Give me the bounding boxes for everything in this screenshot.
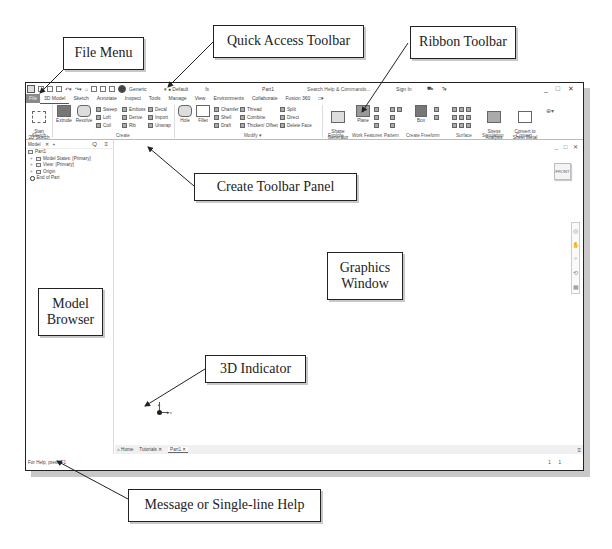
open-icon[interactable] xyxy=(47,86,53,92)
freeform-option-button[interactable] xyxy=(434,115,439,120)
doc-tab-part1[interactable]: Part1 ✕ xyxy=(168,447,188,453)
tab-manage[interactable]: Manage xyxy=(165,94,191,103)
sweep-button[interactable]: Sweep xyxy=(96,107,117,112)
direct-label: Direct xyxy=(287,115,299,120)
sign-in-button[interactable]: Sign In xyxy=(396,86,412,92)
split-button[interactable]: Split xyxy=(280,107,296,112)
emboss-button[interactable]: Emboss xyxy=(122,107,146,112)
surface-tools-row[interactable] xyxy=(452,123,471,128)
search-help-input[interactable]: Search Help & Commands... xyxy=(307,86,387,92)
window-controls[interactable]: _ □ ✕ xyxy=(544,85,577,93)
import-button[interactable]: Import xyxy=(148,115,168,120)
tab-environments[interactable]: Environments xyxy=(209,94,248,103)
decal-button[interactable]: Decal xyxy=(148,107,167,112)
hole-button[interactable]: Hole xyxy=(176,105,194,124)
update-icon[interactable] xyxy=(91,86,97,92)
browser-add-icon[interactable]: + xyxy=(53,142,56,147)
thicken-offset-label: Thicken/ Offset xyxy=(247,123,278,128)
combine-button[interactable]: Combine xyxy=(240,115,265,120)
status-count-1: 1 xyxy=(548,460,558,465)
hole-icon xyxy=(178,105,192,117)
plane-label: Plane xyxy=(357,118,369,123)
measure-icon[interactable] xyxy=(109,86,115,92)
model-states-icon xyxy=(36,157,41,161)
surface-tools-row[interactable] xyxy=(452,115,471,120)
home-icon[interactable]: ⌂ xyxy=(85,86,88,92)
coil-button[interactable]: Coil xyxy=(96,123,111,128)
doc-tab-home[interactable]: ⌂ Home xyxy=(117,447,133,452)
axis-button[interactable] xyxy=(374,107,379,112)
tab-annotate[interactable]: Annotate xyxy=(93,94,121,103)
tab-fusion-360[interactable]: Fusion 360 xyxy=(282,94,315,103)
new-icon[interactable] xyxy=(38,86,44,92)
tab-sketch[interactable]: Sketch xyxy=(69,94,92,103)
fillet-button[interactable]: Fillet xyxy=(194,105,212,124)
zoom-icon[interactable]: ⌕ xyxy=(574,255,577,262)
chamfer-button[interactable]: Chamfer xyxy=(214,107,239,112)
ribbon-options-icon[interactable]: ⊕▾ xyxy=(546,107,554,114)
tab-overflow[interactable]: □▾ xyxy=(314,94,328,103)
appearance-icon[interactable] xyxy=(118,85,126,93)
tab-collaborate[interactable]: Collaborate xyxy=(248,94,282,103)
sketch-pattern-button[interactable] xyxy=(390,123,395,128)
surface-tools-row[interactable] xyxy=(452,107,471,112)
navigation-bar: ◎ ✋ ⌕ ⟲ ▦ xyxy=(571,222,580,294)
x-axis-label: x xyxy=(170,411,172,415)
panel-label-modify[interactable]: Modify ▾ xyxy=(244,133,262,138)
fx-icon[interactable]: fx xyxy=(205,86,209,92)
appearance-dropdown[interactable]: Generic xyxy=(129,86,147,92)
doc-tab-tutorials[interactable]: Tutorials ✕ xyxy=(139,447,162,452)
thicken-offset-button[interactable]: Thicken/ Offset xyxy=(240,123,278,128)
redo-icon[interactable]: ↷▾ xyxy=(75,86,82,92)
draft-label: Draft xyxy=(221,123,231,128)
split-icon xyxy=(280,107,285,112)
extrude-button[interactable]: Extrude xyxy=(54,105,74,124)
plane-button[interactable]: Plane xyxy=(354,105,372,124)
undo-icon[interactable]: ↶▾ xyxy=(65,86,72,92)
revolve-button[interactable]: Revolve xyxy=(74,105,94,124)
steering-wheel-icon[interactable]: ◎ xyxy=(573,227,578,234)
window-title: Part1 xyxy=(262,86,274,92)
save-icon[interactable] xyxy=(56,86,62,92)
material-dropdown[interactable]: ▾ ● Default xyxy=(164,86,189,92)
browser-close-icon[interactable]: ✕ xyxy=(45,142,49,147)
unwrap-button[interactable]: Unwrap xyxy=(148,123,171,128)
tab-inspect[interactable]: Inspect xyxy=(121,94,145,103)
direct-button[interactable]: Direct xyxy=(280,115,299,120)
shell-icon xyxy=(214,115,219,120)
shell-button[interactable]: Shell xyxy=(214,115,231,120)
draft-button[interactable]: Draft xyxy=(214,123,231,128)
pan-icon[interactable]: ✋ xyxy=(572,241,579,248)
rib-button[interactable]: Rib xyxy=(122,123,136,128)
browser-tab-model[interactable]: Model xyxy=(28,142,41,147)
cart-icon[interactable]: ⛟ xyxy=(427,85,433,92)
expand-icon[interactable]: + xyxy=(30,169,34,176)
derive-button[interactable]: Derive xyxy=(122,115,142,120)
tree-item-end-of-part[interactable]: End of Part xyxy=(26,175,113,182)
ucs-button[interactable] xyxy=(374,123,379,128)
look-at-icon[interactable]: ▦ xyxy=(573,283,579,290)
rectangular-pattern-button[interactable] xyxy=(390,107,402,112)
doc-tabs-menu-icon[interactable]: ≡ xyxy=(577,447,581,453)
loft-button[interactable]: Loft xyxy=(96,115,111,120)
circular-pattern-button[interactable] xyxy=(390,115,395,120)
emboss-label: Emboss xyxy=(129,107,146,112)
point-button[interactable] xyxy=(374,115,379,120)
browser-search-menu-icons[interactable]: Q ≡ xyxy=(92,141,111,147)
tab-tools[interactable]: Tools xyxy=(145,94,165,103)
end-of-part-icon xyxy=(30,176,35,181)
orbit-icon[interactable]: ⟲ xyxy=(573,269,578,276)
tab-file[interactable]: File xyxy=(26,94,40,103)
freeform-option-button[interactable] xyxy=(434,107,439,112)
delete-face-button[interactable]: Delete Face xyxy=(280,123,312,128)
thread-button[interactable]: Thread xyxy=(240,107,262,112)
box-button[interactable]: Box xyxy=(410,105,432,124)
select-icon[interactable] xyxy=(100,86,106,92)
panel-label-sketch: Sketch xyxy=(32,133,46,138)
app-logo-icon[interactable] xyxy=(27,85,35,93)
tab-view[interactable]: View xyxy=(191,94,210,103)
help-icon[interactable]: ?▾ xyxy=(442,86,448,92)
tab-3d-model[interactable]: 3D Model xyxy=(40,94,69,104)
viewcube[interactable]: FRONT xyxy=(554,163,571,180)
graphics-window-controls[interactable]: _ □ ✕ xyxy=(555,143,580,150)
